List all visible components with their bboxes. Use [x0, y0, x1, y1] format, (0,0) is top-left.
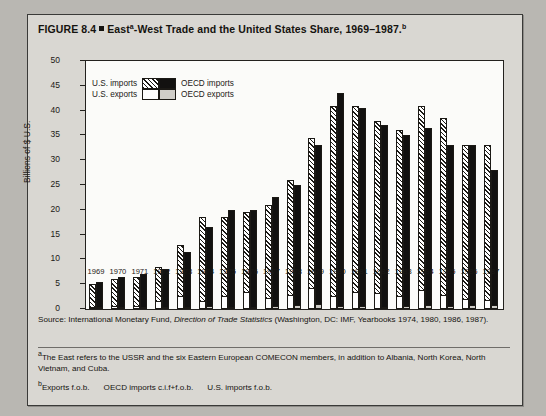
bar-oecd-exports — [133, 277, 140, 309]
segment-us-imports — [141, 307, 146, 308]
segment-us-exports — [353, 292, 358, 308]
segment-oecd-imports — [470, 146, 475, 304]
segment-oecd-imports — [97, 283, 102, 307]
segment-oecd-imports — [251, 211, 256, 307]
bar-oecd-exports — [221, 217, 228, 309]
footnote-b: bExports f.o.b.OECD imports c.i.f+f.o.b.… — [38, 383, 510, 394]
bar-oecd-exports — [396, 130, 403, 309]
segment-us-imports — [448, 306, 453, 308]
y-axis-tick-label: 35 — [38, 129, 60, 139]
legend-label-us-imports: U.S. imports — [92, 79, 142, 88]
bar-group — [418, 106, 432, 309]
bar-oecd-exports — [462, 145, 469, 309]
bar-group — [287, 180, 301, 309]
bar-oecd-exports — [374, 121, 381, 309]
bar-oecd-imports — [425, 128, 432, 309]
bar-oecd-imports — [96, 282, 103, 309]
bar-group — [133, 274, 147, 309]
segment-us-exports — [375, 293, 380, 308]
bar-oecd-imports — [469, 145, 476, 309]
x-axis-tick-label: 1987 — [477, 267, 505, 276]
bar-oecd-exports — [352, 106, 359, 309]
segment-oecd-exports — [463, 146, 468, 299]
segment-us-imports — [492, 305, 497, 308]
legend-swatch-oecd-imports — [159, 78, 176, 89]
bar-oecd-exports — [199, 217, 206, 309]
segment-oecd-imports — [492, 171, 497, 305]
segment-us-exports — [397, 296, 402, 308]
segment-oecd-exports — [134, 278, 139, 306]
segment-us-exports — [266, 298, 271, 308]
legend-swatch-us-imports — [142, 78, 159, 89]
bar-oecd-imports — [294, 185, 301, 309]
bar-oecd-exports — [177, 245, 184, 309]
source-label: Source: — [38, 315, 66, 324]
bar-group — [89, 282, 103, 309]
bar-oecd-exports — [418, 106, 425, 309]
footnote-b-text-3: U.S. imports f.o.b. — [207, 383, 272, 392]
bar-oecd-exports — [89, 284, 96, 309]
segment-oecd-imports — [273, 198, 278, 306]
y-axis-tick-label: 50 — [38, 55, 60, 65]
bar-group — [440, 118, 454, 309]
segment-oecd-imports — [404, 136, 409, 306]
source-text-1: International Monetary Fund, — [66, 315, 174, 324]
footnote-a: aThe East refers to the USSR and the six… — [38, 353, 510, 375]
footnote-b-text-2: OECD imports c.i.f+f.o.b. — [104, 383, 194, 392]
chart-legend: U.S. imports OECD imports U.S. exports O… — [92, 78, 234, 100]
segment-oecd-imports — [185, 253, 190, 307]
bar-group — [352, 106, 366, 309]
segment-oecd-exports — [419, 107, 424, 291]
segment-us-exports — [178, 296, 183, 308]
segment-us-imports — [470, 305, 475, 308]
title-figure-number: FIGURE 8.4 — [38, 23, 96, 35]
segment-oecd-exports — [200, 218, 205, 300]
segment-oecd-exports — [353, 107, 358, 293]
bar-oecd-exports — [265, 205, 272, 309]
segment-oecd-imports — [316, 146, 321, 303]
segment-us-imports — [404, 306, 409, 308]
figure-page: FIGURE 8.4Easta-West Trade and the Unite… — [0, 0, 546, 416]
segment-us-exports — [222, 296, 227, 308]
legend-label-us-exports: U.S. exports — [92, 90, 142, 99]
segment-us-imports — [382, 307, 387, 309]
bar-oecd-exports — [330, 106, 337, 309]
bar-group — [374, 121, 388, 309]
segment-us-imports — [119, 307, 124, 308]
source-note: Source: International Monetary Fund, Dir… — [38, 315, 510, 326]
bar-oecd-imports — [250, 210, 257, 309]
bar-oecd-imports — [228, 210, 235, 309]
segment-oecd-imports — [229, 211, 234, 307]
segment-us-exports — [244, 292, 249, 308]
segment-us-imports — [316, 304, 321, 308]
segment-oecd-imports — [426, 129, 431, 305]
bar-oecd-imports — [491, 170, 498, 309]
divider — [38, 347, 510, 348]
title-bullet-icon — [99, 26, 104, 31]
segment-us-exports — [200, 301, 205, 308]
segment-us-exports — [288, 295, 293, 308]
segment-us-exports — [90, 307, 95, 308]
y-axis-tick-label: 0 — [38, 303, 60, 313]
segment-oecd-imports — [295, 186, 300, 305]
segment-us-imports — [273, 306, 278, 308]
segment-oecd-exports — [222, 218, 227, 296]
segment-us-imports — [338, 306, 343, 308]
bar-oecd-exports — [440, 118, 447, 309]
segment-us-imports — [185, 307, 190, 308]
bar-group — [111, 277, 125, 309]
segment-oecd-exports — [112, 280, 117, 306]
bar-oecd-imports — [403, 135, 410, 309]
source-text-2: (Washington, DC: IMF, Yearbooks 1974, 19… — [272, 315, 488, 324]
segment-us-imports — [163, 307, 168, 308]
segment-oecd-exports — [288, 181, 293, 295]
page-title: FIGURE 8.4Easta-West Trade and the Unite… — [38, 23, 512, 35]
bar-oecd-imports — [359, 108, 366, 309]
footnote-a-text: The East refers to the USSR and the six … — [38, 353, 485, 373]
bar-oecd-imports — [272, 197, 279, 309]
bar-oecd-exports — [243, 212, 250, 309]
y-axis-tick-label: 10 — [38, 253, 60, 263]
segment-oecd-exports — [244, 213, 249, 292]
segment-oecd-exports — [485, 146, 490, 300]
bar-group — [308, 138, 322, 309]
